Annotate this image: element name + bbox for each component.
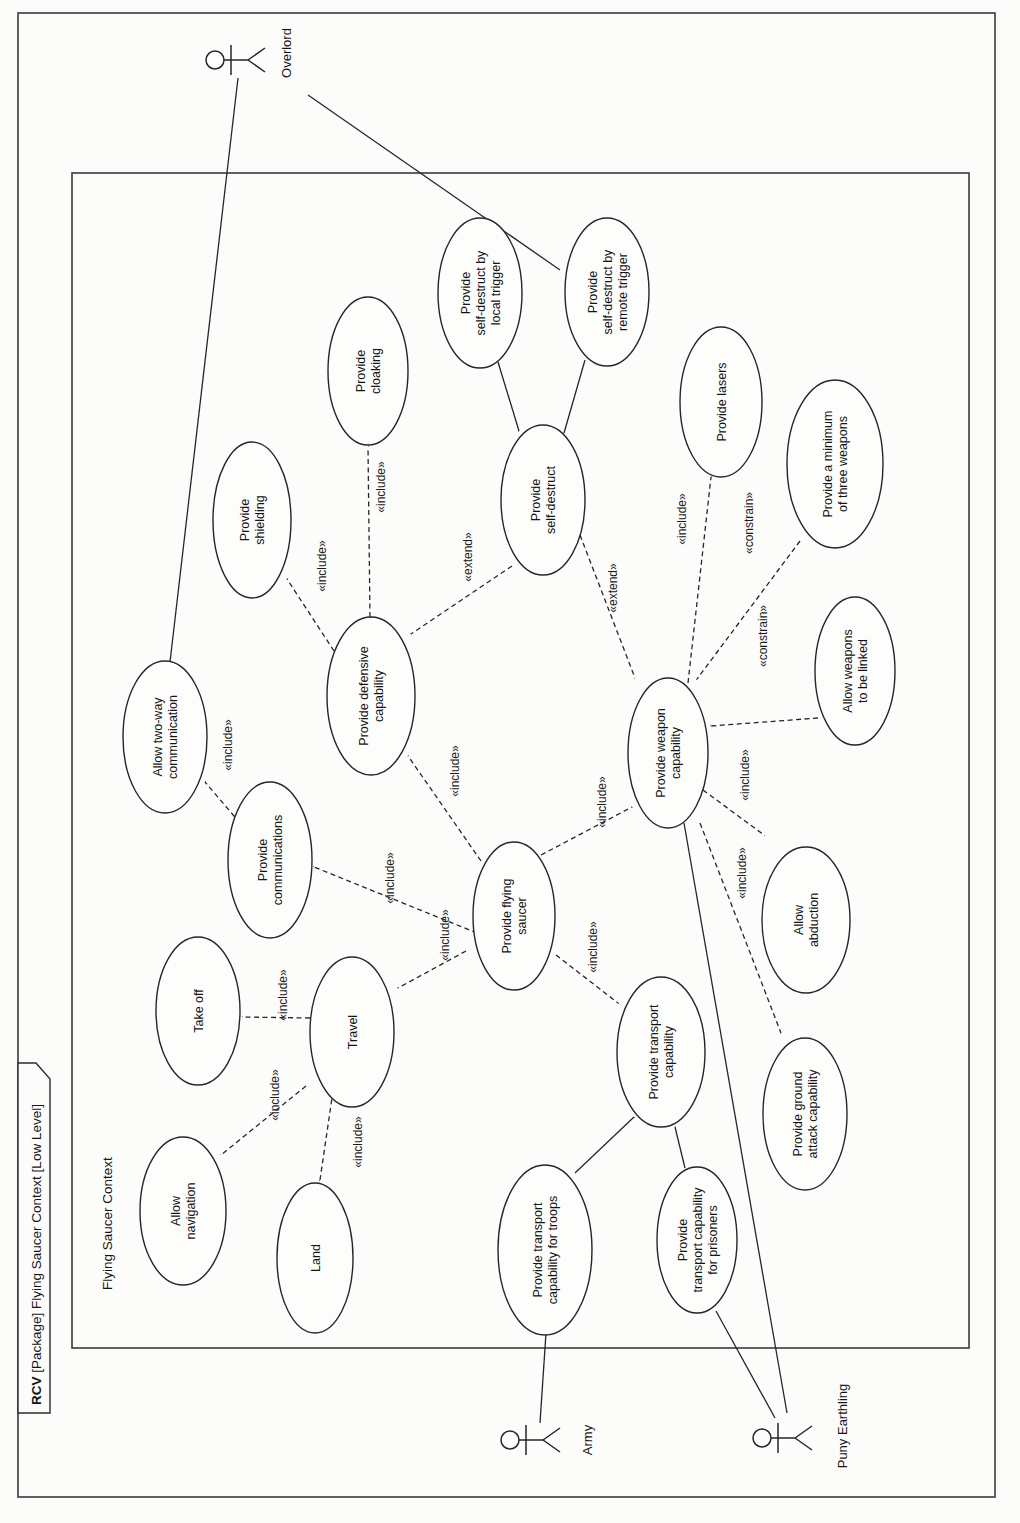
usecase-provide-transport-troops: Provide transport capability for troops [498, 1165, 592, 1335]
actor-leg-icon [543, 1440, 560, 1452]
connector-label: «include» [438, 909, 452, 961]
actor-army: Army [501, 1424, 595, 1455]
usecase-label: shielding [253, 495, 267, 544]
usecase-label: of three weapons [836, 416, 850, 512]
usecase-label: capability for troops [546, 1196, 560, 1304]
include-weapon-abduction [703, 790, 764, 835]
usecase-label: for prisoners [706, 1205, 720, 1274]
frame-title: RCV [Package] Flying Saucer Context [Low… [29, 1104, 44, 1405]
gen-remote-trigger-self-destruct [564, 360, 585, 433]
usecase-provide-lasers: Provide lasers [680, 327, 762, 477]
usecase-label: Provide transport [531, 1202, 545, 1298]
scanned-diagram-page: RCV [Package] Flying Saucer Context [Low… [0, 0, 1020, 1523]
include-defensive-cloaking [368, 447, 370, 617]
usecase-label: self-destruct by [601, 249, 615, 335]
usecase-label: attack capability [806, 1069, 820, 1159]
usecase-provide-transport-prisoners: Provide transport capability for prisone… [657, 1167, 737, 1313]
usecase-label: Provide [529, 479, 543, 521]
usecase-provide-flying-saucer: Provide flying saucer [473, 842, 555, 990]
usecase-allow-weapons-linked: Allow weapons to be linked [815, 597, 895, 745]
connector-label: «include» [221, 719, 235, 771]
gen-prisoners-transport-capability [675, 1127, 685, 1168]
frame-title-keyword: RCV [29, 1376, 44, 1405]
usecase-label: capability [669, 726, 683, 779]
actor-puny-earthling: Puny Earthling [753, 1384, 850, 1469]
actor-leg-icon [543, 1428, 560, 1440]
usecase-label: Provide ground [791, 1072, 805, 1157]
gen-troops-transport-capability [575, 1117, 634, 1173]
include-saucer-defensive [408, 756, 481, 861]
usecase-label: Allow weapons [841, 629, 855, 712]
usecase-label: navigation [184, 1182, 198, 1239]
actor-leg-icon [248, 60, 265, 72]
usecase-label: to be linked [856, 639, 870, 703]
usecase-label: cloaking [369, 348, 383, 394]
connector-label: «include» [738, 749, 752, 801]
usecase-label: Provide [238, 499, 252, 541]
usecase-label: self-destruct [544, 465, 558, 534]
usecase-provide-self-destruct: Provide self-destruct [501, 425, 585, 575]
usecase-label: capability [662, 1025, 676, 1078]
connector-label: «include» [586, 921, 600, 973]
uml-use-case-diagram: RCV [Package] Flying Saucer Context [Low… [0, 0, 1020, 1523]
usecase-provide-communications: Provide communications [228, 782, 312, 938]
actor-leg-icon [248, 48, 265, 60]
actor-leg-icon [795, 1426, 812, 1438]
usecase-label: Provide [256, 839, 270, 881]
usecase-provide-shielding: Provide shielding [213, 442, 291, 598]
actor-head-icon [753, 1429, 771, 1447]
usecase-label: Provide transport [647, 1004, 661, 1100]
actor-head-icon [501, 1431, 519, 1449]
connector-label: «include» [276, 969, 290, 1021]
usecase-provide-ground-attack: Provide ground attack capability [763, 1038, 847, 1190]
usecase-provide-defensive-capability: Provide defensive capability [327, 617, 415, 775]
usecase-provide-self-destruct-remote: Provide self-destruct by remote trigger [565, 218, 649, 366]
usecase-label: Take off [192, 989, 206, 1033]
connector-label: «extend» [461, 532, 475, 582]
usecase-provide-transport-capability: Provide transport capability [617, 977, 705, 1127]
actor-head-icon [206, 51, 224, 69]
usecase-label: local trigger [489, 261, 503, 326]
system-boundary-label: Flying Saucer Context [100, 1157, 115, 1290]
usecase-allow-two-way-communication: Allow two-way communication [123, 661, 207, 813]
usecase-label: Land [309, 1244, 323, 1272]
connector-label: «include» [675, 493, 689, 545]
constrain-min-three-weapon [697, 541, 800, 679]
usecase-label: remote trigger [616, 253, 630, 331]
connector-label: «include» [315, 540, 329, 592]
include-travel-land [320, 1091, 333, 1180]
connector-label: «include» [351, 1116, 365, 1168]
usecase-label: Allow two-way [151, 697, 165, 777]
usecase-take-off: Take off [156, 937, 240, 1085]
usecase-label: Travel [346, 1015, 360, 1049]
include-weapon-lasers [688, 477, 711, 683]
actor-overlord: Overlord [206, 28, 294, 78]
connector-label: «include» [735, 847, 749, 899]
actor-leg-icon [795, 1438, 812, 1450]
usecase-provide-cloaking: Provide cloaking [328, 297, 408, 445]
connector-label: «include» [374, 461, 388, 513]
connector-label: «constrain» [742, 492, 756, 554]
include-saucer-travel [398, 951, 466, 988]
gen-local-trigger-self-destruct [498, 362, 519, 431]
usecase-label: communications [271, 815, 285, 905]
connector-label: «include» [383, 852, 397, 904]
usecase-label: capability [372, 669, 386, 722]
usecase-label: self-destruct by [474, 250, 488, 336]
constrain-linked-weapon [711, 718, 818, 726]
usecase-label: transport capability [691, 1187, 705, 1293]
actor-name: Puny Earthling [835, 1384, 850, 1469]
usecase-label: Provide [459, 272, 473, 314]
usecase-label: Provide defensive [357, 646, 371, 745]
include-saucer-weapon [541, 807, 632, 855]
usecase-label: Provide [586, 271, 600, 313]
connector-label: «extend» [606, 563, 620, 613]
assoc-overlord-remote-trigger [308, 95, 560, 270]
usecase-label: Allow [792, 904, 806, 935]
usecase-provide-weapon-capability: Provide weapon capability [628, 678, 708, 828]
usecase-label: Allow [169, 1195, 183, 1226]
usecase-label: communication [166, 695, 180, 779]
assoc-puny-transport-prisoners [716, 1311, 775, 1418]
usecase-label: abduction [807, 893, 821, 947]
usecase-provide-self-destruct-local: Provide self-destruct by local trigger [438, 218, 522, 368]
